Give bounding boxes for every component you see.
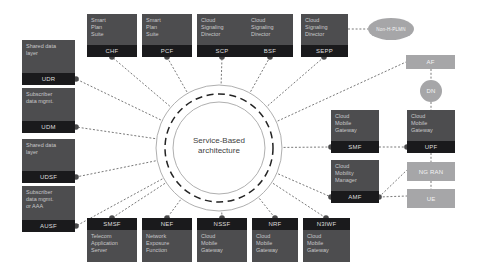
product-name: Telecom Application Server xyxy=(87,230,127,262)
nf-label: NEF xyxy=(142,218,192,230)
nf-label: AMF xyxy=(331,191,379,203)
nf-label: SCP xyxy=(197,45,247,57)
node-amf: Cloud Mobility Manager AMF xyxy=(331,160,379,203)
nf-label: SMF xyxy=(331,141,379,153)
nf-label: UDR xyxy=(22,73,75,85)
nf-label: UDSF xyxy=(22,171,75,183)
external-dn: DN xyxy=(420,80,442,102)
product-name: Cloud Mobile Gateway xyxy=(407,110,439,141)
node-bsf: Cloud Signaling Director BSF xyxy=(247,14,293,57)
node-smf: Cloud Mobile Gateway SMF xyxy=(331,110,379,153)
nf-label: BSF xyxy=(247,45,293,57)
product-name: Cloud Mobile Gateway xyxy=(252,230,284,262)
product-name: Cloud Signaling Director xyxy=(301,14,333,45)
nf-label: PCF xyxy=(142,45,192,57)
node-udr: Shared data layer UDR xyxy=(22,40,75,85)
nf-label: NRF xyxy=(252,218,298,230)
nf-label: NSSF xyxy=(197,218,247,230)
product-name: Network Exposure Function xyxy=(142,230,182,262)
node-udm: Subscriber data mgmt. UDM xyxy=(22,88,75,133)
nf-label: AUSF xyxy=(22,220,75,232)
node-n3iwf: Cloud Mobile Gateway N3IWF xyxy=(303,218,350,262)
nf-label: CHF xyxy=(87,45,137,57)
external-ue: UE xyxy=(407,189,455,208)
nf-label: UDM xyxy=(22,121,75,133)
product-name: Cloud Signaling Director xyxy=(197,14,229,45)
product-name: Cloud Mobile Gateway xyxy=(303,230,335,262)
product-name: Subscriber data mgmt. or AAA xyxy=(22,186,62,220)
product-name: Cloud Signaling Director xyxy=(247,14,279,45)
node-udsf: Shared data layer UDSF xyxy=(22,139,75,183)
nf-label: UPF xyxy=(407,141,455,153)
nf-label: N3IWF xyxy=(303,218,350,230)
nf-label: SMSF xyxy=(87,218,137,230)
node-nssf: Cloud Mobile Gateway NSSF xyxy=(197,218,247,262)
node-ausf: Subscriber data mgmt. or AAA AUSF xyxy=(22,186,75,232)
node-smsf: Telecom Application Server SMSF xyxy=(87,218,137,262)
node-nef: Network Exposure Function NEF xyxy=(142,218,192,262)
external-non-h-plmn: Non-H-PLMN xyxy=(368,18,414,40)
node-pcf: Smart Plan Suite PCF xyxy=(142,14,192,57)
product-name: Shared data layer xyxy=(22,40,62,73)
node-nrf: Cloud Mobile Gateway NRF xyxy=(252,218,298,262)
nf-label: SEPP xyxy=(301,45,348,57)
external-af: AF xyxy=(406,55,455,69)
product-name: Shared data layer xyxy=(22,139,62,171)
node-upf: Cloud Mobile Gateway UPF xyxy=(407,110,455,153)
product-name: Cloud Mobile Gateway xyxy=(331,110,363,141)
sba-center-label: Service-Based architecture xyxy=(181,136,257,156)
product-name: Cloud Mobile Gateway xyxy=(197,230,229,262)
external-ng-ran: NG RAN xyxy=(407,162,455,181)
product-name: Smart Plan Suite xyxy=(142,14,174,45)
product-name: Cloud Mobility Manager xyxy=(331,160,363,191)
node-sepp: Cloud Signaling Director SEPP xyxy=(301,14,348,57)
node-chf: Smart Plan Suite CHF xyxy=(87,14,137,57)
product-name: Smart Plan Suite xyxy=(87,14,119,45)
sba-diagram: Service-Based architecture Shared data l… xyxy=(0,0,480,278)
node-scp: Cloud Signaling Director SCP xyxy=(197,14,247,57)
product-name: Subscriber data mgmt. xyxy=(22,88,62,121)
